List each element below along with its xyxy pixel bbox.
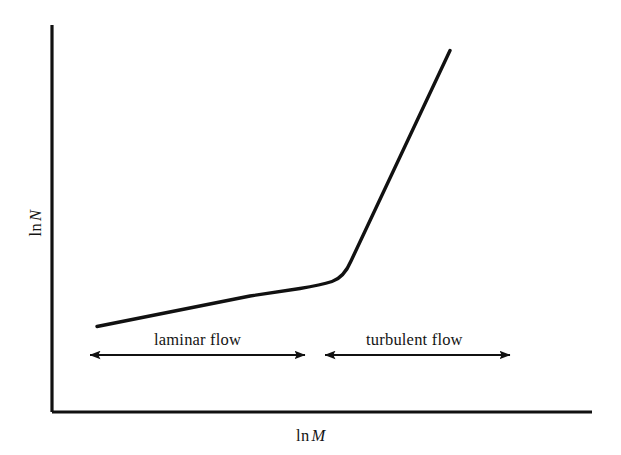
y-axis-label-prefix: ln xyxy=(26,223,45,236)
turbulent-flow-label: turbulent flow xyxy=(366,332,463,349)
y-axis-label-symbol: N xyxy=(26,210,45,223)
plot-area xyxy=(0,0,621,455)
x-axis-label-prefix: ln xyxy=(296,426,309,445)
laminar-flow-label: laminar flow xyxy=(154,332,241,349)
x-axis-label-symbol: M xyxy=(309,426,325,445)
figure-canvas: lnN lnM laminar flow turbulent flow xyxy=(0,0,621,455)
data-curve xyxy=(97,51,450,327)
x-axis-label: lnM xyxy=(296,428,325,445)
y-axis-label-text: lnN xyxy=(28,210,45,237)
y-axis-label: lnN xyxy=(16,188,56,258)
